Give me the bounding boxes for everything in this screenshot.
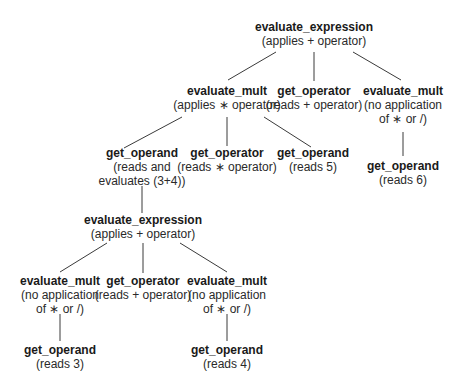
node-desc: (no application [187,288,267,302]
node-desc: (reads + operator) [95,288,191,302]
edge-n8-n11 [180,243,227,272]
node-desc: (reads 3) [24,357,96,371]
node-evaluate-expression-root: evaluate_expression (applies + operator) [255,20,373,48]
node-desc: (reads 5) [277,160,349,174]
node-title: evaluate_mult [187,274,267,288]
node-title: get_operator [266,84,362,98]
node-desc: (no application [363,98,443,112]
node-desc: (applies + operator) [84,227,202,241]
node-title: evaluate_expression [84,213,202,227]
node-title: get_operator [95,274,191,288]
node-title: get_operand [367,159,439,173]
tree-edges [0,0,455,386]
node-get-operator-times: get_operator (reads ∗ operator) [177,146,276,174]
node-title: evaluate_mult [20,274,100,288]
node-title: evaluate_expression [255,20,373,34]
node-get-operand-5: get_operand (reads 5) [277,146,349,174]
edge-n8-n9 [60,243,107,272]
node-desc: of ∗ or /) [20,302,100,316]
node-get-operator-plus-inner: get_operator (reads + operator) [95,274,191,302]
node-evaluate-mult-none: evaluate_mult (no application of ∗ or /) [363,84,443,126]
node-get-operator-plus: get_operator (reads + operator) [266,84,362,112]
node-desc: (reads 4) [191,357,263,371]
node-get-operand-3: get_operand (reads 3) [24,343,96,371]
node-title: get_operand [191,343,263,357]
node-title: get_operand [24,343,96,357]
node-desc: (applies ∗ operator) [173,98,280,112]
node-desc: (reads 6) [367,173,439,187]
node-title: evaluate_mult [173,84,280,98]
node-desc: (reads ∗ operator) [177,160,276,174]
node-desc: of ∗ or /) [363,112,443,126]
node-evaluate-mult-left: evaluate_mult (no application of ∗ or /) [20,274,100,316]
node-title: get_operand [277,146,349,160]
node-get-operand-6: get_operand (reads 6) [367,159,439,187]
node-title: get_operand [98,146,185,160]
node-desc: (reads and [98,160,185,174]
edge-n0-n1 [228,52,276,80]
node-desc: of ∗ or /) [187,302,267,316]
node-get-operand-4: get_operand (reads 4) [191,343,263,371]
edge-n1-n4 [124,117,182,148]
edge-n1-n6 [264,117,311,147]
node-desc: (reads + operator) [266,98,362,112]
node-evaluate-mult-right: evaluate_mult (no application of ∗ or /) [187,274,267,316]
node-desc: (applies + operator) [255,34,373,48]
node-evaluate-expression-inner: evaluate_expression (applies + operator) [84,213,202,241]
edge-n0-n3 [353,52,401,80]
node-desc: (no application [20,288,100,302]
node-get-operand-3plus4: get_operand (reads and evaluates (3+4)) [98,146,185,188]
node-desc: evaluates (3+4)) [98,174,185,188]
node-evaluate-mult-applies: evaluate_mult (applies ∗ operator) [173,84,280,112]
node-title: get_operator [177,146,276,160]
node-title: evaluate_mult [363,84,443,98]
